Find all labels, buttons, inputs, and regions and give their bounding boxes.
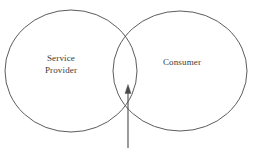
- intersection-arrow: [125, 85, 131, 149]
- right-set-label: Consumer: [144, 57, 220, 69]
- diagram-canvas: Service Provider Consumer: [0, 0, 254, 148]
- right-circle-consumer: [113, 11, 247, 131]
- left-set-label: Service Provider: [22, 53, 100, 76]
- arrow-head-icon: [125, 85, 131, 94]
